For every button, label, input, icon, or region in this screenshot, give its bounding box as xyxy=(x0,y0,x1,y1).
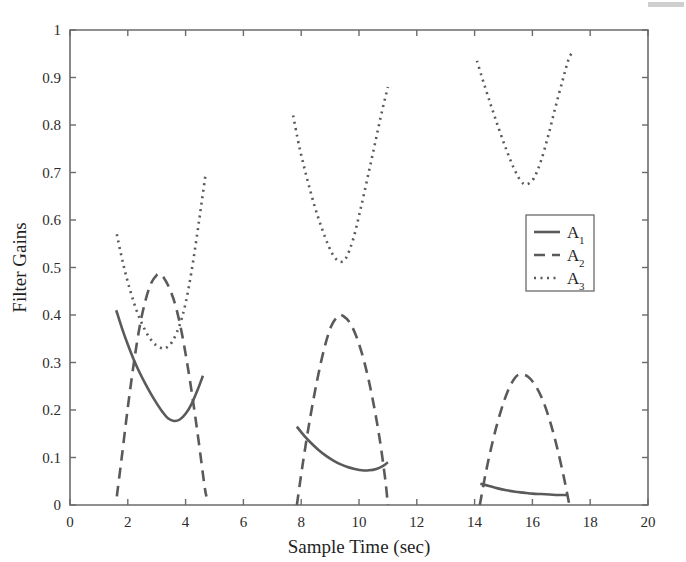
y-tick-label: 0.5 xyxy=(42,260,61,276)
y-tick-label: 0.3 xyxy=(42,355,61,371)
x-axis-title: Sample Time (sec) xyxy=(288,536,431,558)
y-axis-title: Filter Gains xyxy=(9,222,30,312)
x-tick-label: 10 xyxy=(352,514,367,530)
y-tick-label: 0.8 xyxy=(42,117,61,133)
x-tick-label: 12 xyxy=(409,514,424,530)
x-tick-label: 14 xyxy=(467,514,483,530)
y-tick-label: 0.9 xyxy=(42,70,61,86)
y-tick-label: 1 xyxy=(54,22,62,38)
legend-label-subscript: 1 xyxy=(579,234,585,246)
y-tick-label: 0.7 xyxy=(42,165,61,181)
page-edge-artifact xyxy=(648,2,684,7)
x-tick-label: 18 xyxy=(583,514,598,530)
y-tick-label: 0.4 xyxy=(42,307,61,323)
legend-label-subscript: 2 xyxy=(579,257,585,269)
x-tick-label: 2 xyxy=(124,514,132,530)
x-tick-label: 6 xyxy=(240,514,248,530)
x-tick-label: 8 xyxy=(297,514,305,530)
x-tick-label: 0 xyxy=(66,514,74,530)
x-tick-label: 20 xyxy=(641,514,656,530)
y-tick-label: 0.6 xyxy=(42,212,61,228)
chart-legend[interactable]: A1A2A3 xyxy=(526,215,594,292)
y-tick-label: 0.1 xyxy=(42,450,61,466)
filter-gains-chart: 02468101214161820 00.10.20.30.40.50.60.7… xyxy=(0,0,686,562)
x-tick-label: 4 xyxy=(182,514,190,530)
legend-label-subscript: 3 xyxy=(579,280,585,292)
y-tick-label: 0.2 xyxy=(42,402,61,418)
y-tick-label: 0 xyxy=(54,497,62,513)
x-tick-label: 16 xyxy=(525,514,541,530)
figure-container: 02468101214161820 00.10.20.30.40.50.60.7… xyxy=(0,0,686,562)
